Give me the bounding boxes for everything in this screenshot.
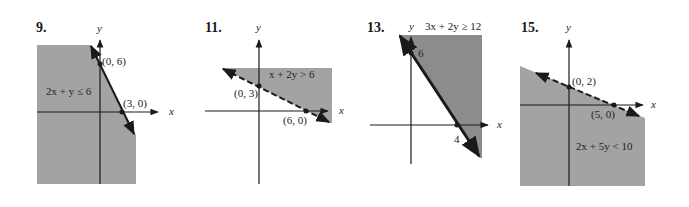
point-marker xyxy=(304,109,309,114)
y-axis-label: y xyxy=(255,21,261,33)
y-axis-label: y xyxy=(565,21,571,33)
x-axis-label: x xyxy=(168,105,174,117)
graph-15: 15. x y (0, 2) (5, 0) 2x + 5y < 10 xyxy=(520,20,656,186)
x-axis-label: x xyxy=(338,104,344,116)
graph-11: 11. x y (0, 3) (6, 0) x + 2y > 6 xyxy=(205,20,344,184)
inequality-label: 2x + 5y < 10 xyxy=(576,140,633,152)
problem-number: 9. xyxy=(36,20,47,35)
inequality-label: x + 2y > 6 xyxy=(269,68,315,80)
point-label: 6 xyxy=(418,47,424,59)
point-marker xyxy=(612,103,617,108)
y-axis-label: y xyxy=(408,20,414,32)
y-axis-label: y xyxy=(96,22,102,34)
problem-number: 11. xyxy=(205,20,222,35)
point-marker xyxy=(409,51,414,56)
graph-9: 9. x y (0, 6) (3, 0) 2x + y ≤ 6 xyxy=(36,20,174,184)
x-axis-label: x xyxy=(650,98,656,110)
problem-number: 15. xyxy=(521,20,539,35)
point-label: (0, 6) xyxy=(102,55,126,68)
graph-13: 13. x y 6 4 3x + 2y ≥ 12 xyxy=(367,20,502,164)
point-label: (0, 2) xyxy=(572,75,596,88)
inequality-label: 3x + 2y ≥ 12 xyxy=(425,20,481,32)
point-label: 4 xyxy=(454,133,460,145)
point-marker xyxy=(567,85,572,90)
point-label: (5, 0) xyxy=(591,108,615,121)
point-label: (6, 0) xyxy=(283,114,307,127)
point-label: (3, 0) xyxy=(123,97,147,110)
inequality-label: 2x + y ≤ 6 xyxy=(46,85,92,97)
point-marker xyxy=(120,110,125,115)
graphs-canvas: 9. x y (0, 6) (3, 0) 2x + y ≤ 6 11. x y … xyxy=(0,0,689,207)
point-label: (0, 3) xyxy=(234,87,258,100)
point-marker xyxy=(455,123,460,128)
problem-number: 13. xyxy=(367,20,385,35)
x-axis-label: x xyxy=(496,118,502,130)
